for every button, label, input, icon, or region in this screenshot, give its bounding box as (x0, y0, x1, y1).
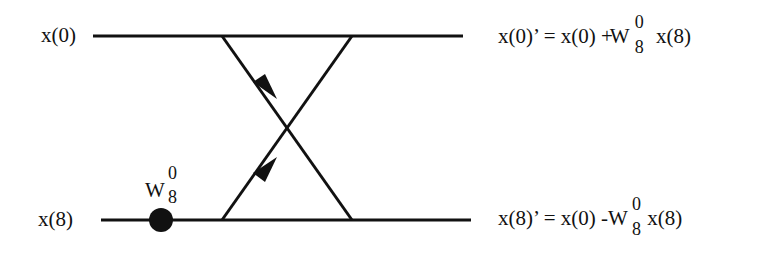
eq0-subscript: 8 (635, 38, 644, 56)
eq1-rhs: x(8) (647, 206, 682, 230)
twiddle-subscript: 8 (168, 188, 177, 206)
eq1-lhs: x(8)’ = x(0) - (498, 206, 608, 230)
eq1-superscript: 0 (632, 195, 641, 213)
eq1-subscript: 8 (632, 220, 641, 238)
twiddle-superscript: 0 (168, 164, 177, 182)
output-x0-equation: x(0)’ = x(0) +W08 x(8) (498, 26, 691, 47)
eq0-lhs: x(0)’ = x(0) + (498, 24, 613, 48)
input-x0-label: x(0) (41, 25, 76, 46)
twiddle-base: W (145, 180, 165, 201)
twiddle-multiplier-dot (149, 208, 173, 232)
eq0-superscript: 0 (635, 13, 644, 31)
input-x8-label: x(8) (38, 209, 73, 230)
output-x8-equation: x(8)’ = x(0) -W08 x(8) (498, 208, 682, 229)
eq0-base: W (610, 24, 630, 48)
eq1-base: W (608, 206, 628, 230)
eq0-rhs: x(8) (656, 24, 691, 48)
